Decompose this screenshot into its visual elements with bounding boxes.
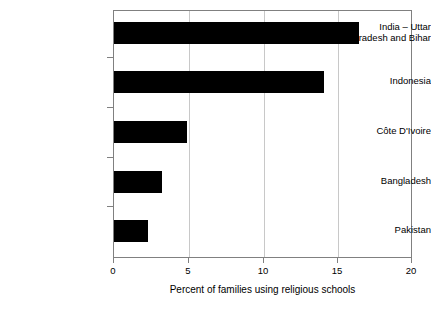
x-tick-20 xyxy=(411,258,412,263)
x-tick-10 xyxy=(263,258,264,263)
x-tick-label-5: 5 xyxy=(168,265,208,277)
gridline-10 xyxy=(264,11,265,257)
category-label-india: India – Uttar Pradesh and Bihar xyxy=(323,21,431,43)
y-minor-tick xyxy=(107,157,113,158)
bar-bangladesh xyxy=(114,171,162,193)
gridline-5 xyxy=(189,11,190,257)
bar-chart: India – Uttar Pradesh and Bihar Indonesi… xyxy=(0,0,431,309)
y-minor-tick xyxy=(107,57,113,58)
category-label-bangladesh: Bangladesh xyxy=(323,175,431,186)
bar-indonesia xyxy=(114,71,324,93)
category-label-indonesia: Indonesia xyxy=(323,75,431,86)
bar-cote-divoire xyxy=(114,121,187,143)
x-tick-5 xyxy=(188,258,189,263)
x-tick-label-20: 20 xyxy=(391,265,431,277)
x-tick-label-10: 10 xyxy=(243,265,283,277)
category-label-pakistan: Pakistan xyxy=(323,224,431,235)
x-axis-title: Percent of families using religious scho… xyxy=(113,283,412,296)
y-minor-tick xyxy=(107,206,113,207)
x-tick-label-15: 15 xyxy=(317,265,357,277)
x-tick-label-0: 0 xyxy=(93,265,133,277)
x-tick-15 xyxy=(337,258,338,263)
bar-pakistan xyxy=(114,220,148,242)
y-minor-tick xyxy=(107,107,113,108)
x-tick-0 xyxy=(113,258,114,263)
category-label-cote-divoire: Côte D'Ivoire xyxy=(323,125,431,136)
